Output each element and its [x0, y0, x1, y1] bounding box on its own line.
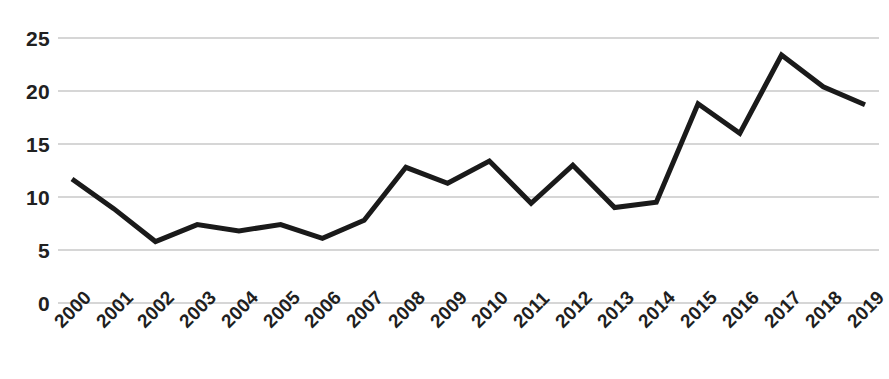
data-line-group: [72, 55, 865, 242]
data-line: [72, 55, 865, 242]
y-tick-label: 25: [4, 28, 50, 49]
y-tick-label: 10: [4, 187, 50, 208]
y-tick-label: 20: [4, 81, 50, 102]
x-axis: 2000200120022003200420052006200720082009…: [58, 303, 879, 379]
y-tick-label: 15: [4, 134, 50, 155]
y-axis: 0510152025: [0, 0, 50, 379]
line-chart: 0510152025 20002001200220032004200520062…: [0, 0, 889, 379]
y-tick-label: 5: [4, 240, 50, 261]
y-tick-label: 0: [4, 293, 50, 314]
